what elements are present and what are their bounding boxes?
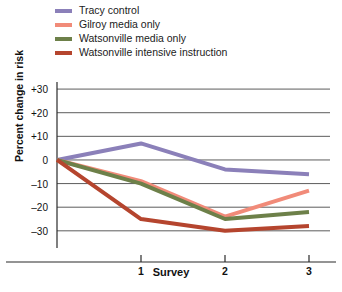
y-axis-tick-label: –20 [20, 202, 48, 213]
y-axis-title: Percent change in risk [13, 21, 25, 191]
plot-svg [0, 0, 342, 292]
chart-container: Tracy control Gilroy media only Watsonvi… [0, 0, 342, 292]
plot-area: +30+20+100–10–20–30 123 Survey Percent c… [0, 0, 342, 292]
x-axis-title: Survey [0, 266, 342, 278]
y-axis-tick-label: –30 [20, 225, 48, 236]
series-line-watsonville-media-only [57, 160, 309, 219]
